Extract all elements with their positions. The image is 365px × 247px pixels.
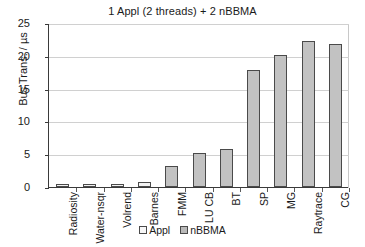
plot-frame-right	[348, 24, 349, 188]
bar	[274, 55, 287, 188]
legend-item: Appl	[139, 223, 170, 236]
bar	[247, 70, 260, 187]
x-category-label: CG	[339, 192, 351, 208]
bar-chart: 1 Appl (2 threads) + 2 nBBMA Bus Trans. …	[0, 0, 365, 247]
x-category-label: MG	[285, 192, 297, 209]
bar	[165, 166, 178, 187]
legend-label: Appl	[149, 224, 170, 236]
bar	[83, 184, 96, 187]
legend-swatch-icon	[180, 226, 188, 234]
y-tick-label: 5	[0, 148, 30, 160]
bar	[111, 184, 124, 187]
x-category-label: LU CB	[203, 192, 215, 223]
legend-label: nBBMA	[190, 224, 226, 236]
y-tick-label: 0	[0, 181, 30, 193]
chart-title: 1 Appl (2 threads) + 2 nBBMA	[0, 5, 365, 17]
y-tick-mark	[45, 122, 49, 123]
y-tick-label: 25	[0, 17, 30, 29]
y-tick-label: 10	[0, 115, 30, 127]
y-tick-label: 20	[0, 50, 30, 62]
bar	[220, 149, 233, 187]
x-category-label: BT	[230, 192, 242, 205]
plot-area: 0510152025	[48, 24, 348, 188]
bar	[138, 182, 151, 187]
y-tick-mark	[45, 188, 49, 189]
bar	[56, 184, 69, 187]
legend-swatch-icon	[139, 226, 147, 234]
chart-legend: ApplnBBMA	[0, 222, 365, 236]
x-category-label: FMM	[176, 192, 188, 216]
bar	[329, 44, 342, 187]
gridline	[49, 24, 349, 25]
bar	[302, 41, 315, 187]
x-category-label: Barnes	[148, 192, 160, 225]
y-tick-mark	[45, 155, 49, 156]
x-category-label: SP	[258, 192, 270, 206]
y-tick-mark	[45, 90, 49, 91]
y-tick-mark	[45, 24, 49, 25]
y-tick-label: 15	[0, 83, 30, 95]
y-tick-mark	[45, 57, 49, 58]
legend-item: nBBMA	[180, 223, 226, 236]
bar	[193, 153, 206, 187]
